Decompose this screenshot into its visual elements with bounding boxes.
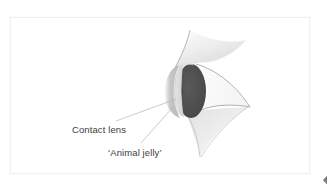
label-animal-jelly: ‘Animal jelly’: [108, 147, 162, 158]
leader-lines: [116, 99, 176, 143]
leader-line-contact-lens: [116, 99, 176, 121]
eye-diagram-svg: [0, 0, 330, 187]
label-contact-lens: Contact lens: [72, 124, 126, 135]
leader-line-animal-jelly: [141, 107, 173, 143]
figure-page: Contact lens ‘Animal jelly’: [0, 0, 330, 187]
upper-eyelid-shape: [172, 30, 246, 72]
